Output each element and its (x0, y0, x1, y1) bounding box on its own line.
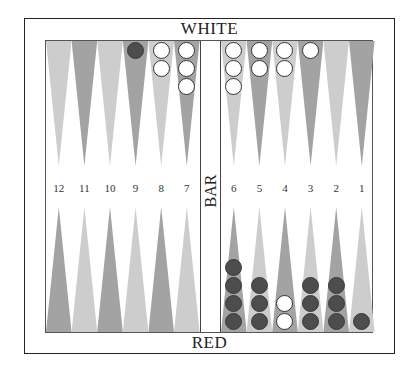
triangle-point (72, 41, 98, 166)
point-bottom-1[interactable] (349, 207, 375, 332)
point-bottom-9[interactable] (123, 207, 149, 332)
point-bottom-2[interactable] (323, 207, 349, 332)
triangle-point (323, 41, 349, 166)
home-board-half: 654321 (220, 41, 374, 332)
red-checker[interactable] (302, 313, 319, 330)
triangle-point (72, 207, 98, 332)
triangle-point (298, 41, 324, 166)
white-checker[interactable] (302, 42, 319, 59)
playing-area: 121110987 BAR 654321 (45, 40, 373, 333)
point-bottom-11[interactable] (72, 207, 98, 332)
red-checker[interactable] (251, 295, 268, 312)
red-checker[interactable] (328, 277, 345, 294)
point-number-label: 7 (174, 182, 200, 194)
point-top[interactable] (247, 41, 273, 166)
point-top[interactable] (272, 41, 298, 166)
red-checker[interactable] (302, 277, 319, 294)
point-top[interactable] (72, 41, 98, 166)
triangle-point (46, 207, 72, 332)
triangle-point (349, 41, 375, 166)
triangle-point (123, 207, 149, 332)
point-number-label: 9 (123, 182, 149, 194)
point-number-label: 8 (148, 182, 174, 194)
white-checker[interactable] (153, 60, 170, 77)
point-top[interactable] (46, 41, 72, 166)
triangle-point (97, 207, 123, 332)
point-top[interactable] (323, 41, 349, 166)
point-bottom-12[interactable] (46, 207, 72, 332)
point-number-label: 12 (46, 182, 72, 194)
point-top[interactable] (221, 41, 247, 166)
point-top[interactable] (148, 41, 174, 166)
point-number-label: 10 (97, 182, 123, 194)
point-number-label: 6 (221, 182, 247, 194)
point-number-label: 11 (72, 182, 98, 194)
point-number-label: 3 (298, 182, 324, 194)
point-number-label: 5 (247, 182, 273, 194)
point-top[interactable] (174, 41, 200, 166)
red-checker[interactable] (302, 295, 319, 312)
point-number-label: 2 (323, 182, 349, 194)
triangle-point (174, 207, 200, 332)
point-bottom-6[interactable] (221, 207, 247, 332)
point-bottom-8[interactable] (148, 207, 174, 332)
bar-label: BAR (202, 175, 220, 208)
red-checker[interactable] (251, 313, 268, 330)
red-checker[interactable] (127, 42, 144, 59)
point-top[interactable] (123, 41, 149, 166)
bottom-player-label: RED (25, 333, 394, 353)
outer-board-half: 121110987 (46, 41, 200, 332)
red-checker[interactable] (251, 277, 268, 294)
triangle-point (123, 41, 149, 166)
triangle-point (97, 41, 123, 166)
point-number-label: 4 (272, 182, 298, 194)
bar[interactable]: BAR (200, 41, 220, 332)
white-checker[interactable] (251, 42, 268, 59)
red-checker[interactable] (328, 295, 345, 312)
point-bottom-7[interactable] (174, 207, 200, 332)
white-checker[interactable] (251, 60, 268, 77)
point-bottom-5[interactable] (247, 207, 273, 332)
white-checker[interactable] (153, 42, 170, 59)
point-bottom-10[interactable] (97, 207, 123, 332)
point-bottom-4[interactable] (272, 207, 298, 332)
red-checker[interactable] (328, 313, 345, 330)
top-player-label: WHITE (25, 19, 394, 39)
point-bottom-3[interactable] (298, 207, 324, 332)
point-top[interactable] (349, 41, 375, 166)
point-top[interactable] (298, 41, 324, 166)
triangle-point (148, 207, 174, 332)
point-number-label: 1 (349, 182, 375, 194)
point-top[interactable] (97, 41, 123, 166)
triangle-point (46, 41, 72, 166)
